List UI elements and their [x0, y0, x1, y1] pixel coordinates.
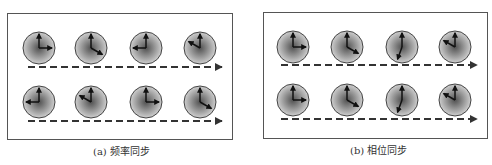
clock-icon — [130, 32, 162, 64]
panel-caption-a: (a) 频率同步 — [93, 143, 150, 158]
clock-icon — [439, 84, 471, 116]
clock-icon — [386, 84, 418, 116]
clock-icon — [75, 86, 107, 118]
clock-icon — [184, 86, 216, 118]
clock-icon — [130, 86, 162, 118]
clock-icon — [439, 31, 471, 63]
clock-icon — [23, 32, 55, 64]
clock-icon — [331, 31, 363, 63]
clock-icon — [277, 31, 309, 63]
clock-sync-diagram — [0, 0, 492, 165]
clock-icon — [277, 84, 309, 116]
clock-icon — [184, 32, 216, 64]
clock-icon — [75, 32, 107, 64]
clock-icon — [331, 84, 363, 116]
panel-caption-b: (b) 相位同步 — [350, 142, 407, 157]
clock-icon — [23, 86, 55, 118]
clock-icon — [386, 31, 418, 63]
